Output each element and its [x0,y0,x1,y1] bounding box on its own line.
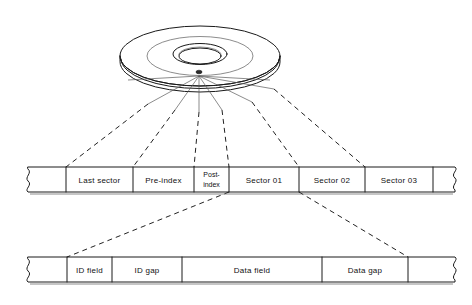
sector-detail-band: ID field ID gap Data field Data gap [27,257,456,284]
figure-canvas: Last sector Pre-index Post- index Sector… [0,0,472,305]
track-cell-post-index-line2: index [203,181,220,188]
center-hole [179,48,221,64]
leader-line [133,110,175,167]
track-band: Last sector Pre-index Post- index Sector… [27,167,456,194]
leader-line [274,89,365,167]
leaders-track-to-sector [67,192,408,257]
leader-line [67,192,229,257]
leader-line [252,102,299,167]
disk-sector-format-figure: Last sector Pre-index Post- index Sector… [0,0,472,305]
track-cell-sector-02: Sector 02 [314,176,351,185]
disk-platter [120,26,280,112]
leader-line [66,104,148,167]
sector-cell-id-gap: ID gap [134,266,159,275]
leader-line [299,192,408,257]
sector-cell-data-gap: Data gap [348,266,383,275]
inner-ring [147,37,253,76]
track-cell-sector-01: Sector 01 [246,176,283,185]
track-cell-last-sector: Last sector [79,176,121,185]
track-cell-sector-03: Sector 03 [381,176,418,185]
leader-line [194,112,199,167]
index-hole [196,70,202,74]
sector-cell-data-field: Data field [234,266,270,275]
sector-cell-id-field: ID field [76,266,103,275]
track-cell-pre-index: Pre-index [145,176,182,185]
leader-line [222,110,229,167]
track-cell-post-index-line1: Post- [203,171,220,178]
